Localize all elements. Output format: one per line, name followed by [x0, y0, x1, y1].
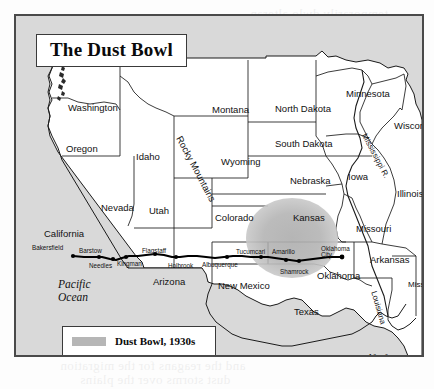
city-label-amarillo: Amarillo [272, 248, 295, 255]
city-label-albuquerque: Albuquerque [202, 261, 238, 268]
water-label-gulf-of-mexico: Gulf of Mexico [354, 353, 423, 357]
state-label-idaho: Idaho [136, 151, 160, 162]
state-label-nevada: Nevada [101, 202, 134, 213]
state-label-oregon: Oregon [66, 143, 98, 154]
map-page: temporarily dwlo alteran hearing the gra… [0, 0, 434, 389]
city-label-barstow: Barstow [79, 247, 102, 254]
state-label-south-dakota: South Dakota [275, 138, 333, 149]
state-name: Montana [212, 104, 249, 115]
state-name: Iowa [348, 171, 368, 182]
state-label-north-dakota: North Dakota [275, 103, 331, 114]
legend-item-route66: Route 66, roadway used by migrants [72, 352, 203, 357]
city-label-tucumcari: Tucumcari [236, 248, 265, 255]
city-label-needles: Needles [89, 262, 112, 269]
legend-label-route66: Route 66, roadway used by migrants [115, 352, 203, 357]
state-name: Washington [68, 102, 118, 113]
city-label-bakersfield: Bakersfield [32, 244, 63, 251]
state-label-new-mexico: New Mexico [218, 280, 270, 291]
city-label-holbrook: Holbrook [168, 262, 193, 269]
state-name: Missouri [356, 223, 391, 234]
map-frame: The Dust Bowl Dust Bowl, 1930s Route 66,… [14, 14, 424, 357]
state-name: Oklahoma [317, 270, 360, 281]
dust-bowl-region [246, 198, 338, 278]
map-title-box: The Dust Bowl [36, 34, 187, 67]
city-label-flagstaff: Flagstaff [142, 247, 166, 254]
state-label-utah: Utah [149, 205, 169, 216]
state-name: Wyoming [221, 156, 261, 167]
state-name: Wisconsin [394, 120, 424, 131]
state-label-illinois: Illinois [397, 188, 423, 199]
state-label-nebraska: Nebraska [290, 175, 331, 186]
state-name: Utah [149, 205, 169, 216]
state-label-minnesota: Minnesota [346, 88, 390, 99]
state-label-oklahoma: Oklahoma [317, 270, 360, 281]
state-name: Minnesota [346, 88, 390, 99]
state-label-arkansas: Arkansas [370, 254, 410, 265]
state-label-miss-: Miss. [408, 280, 424, 289]
legend-item-dustbowl: Dust Bowl, 1930s [72, 335, 203, 348]
state-name: South Dakota [275, 138, 333, 149]
state-name: Kansas [293, 212, 325, 223]
legend-label-route66-line1: Route 66, roadway [115, 352, 203, 357]
state-label-arizona: Arizona [153, 276, 185, 287]
state-label-kansas: Kansas [293, 212, 325, 223]
map-legend: Dust Bowl, 1930s Route 66, roadway used … [62, 326, 216, 357]
state-label-washington: Washington [68, 102, 118, 113]
state-label-texas: Texas [294, 306, 319, 317]
state-name: Illinois [397, 188, 423, 199]
state-name: Texas [294, 306, 319, 317]
page-title: The Dust Bowl [50, 39, 173, 61]
state-name: Colorado [215, 212, 254, 223]
state-name: Oregon [66, 143, 98, 154]
state-name: Nebraska [290, 175, 331, 186]
bleed-text: dust storms over the plains [80, 372, 230, 388]
state-name: New Mexico [218, 280, 270, 291]
state-label-california: California [44, 228, 84, 239]
state-label-colorado: Colorado [215, 212, 254, 223]
state-label-missouri: Missouri [356, 223, 391, 234]
state-name: Nevada [101, 202, 134, 213]
state-label-wisconsin: Wisconsin [394, 120, 424, 131]
state-label-wyoming: Wyoming [221, 156, 261, 167]
state-name: Arizona [153, 276, 185, 287]
state-label-montana: Montana [212, 104, 249, 115]
dustbowl-swatch-icon [72, 337, 106, 346]
city-label-shamrock: Shamrock [280, 268, 308, 275]
state-name: North Dakota [275, 103, 331, 114]
water-label-pacific: PacificOcean [58, 278, 91, 304]
state-label-iowa: Iowa [348, 171, 368, 182]
legend-label-dustbowl: Dust Bowl, 1930s [115, 335, 195, 348]
state-name: California [44, 228, 84, 239]
city-label-oklahoma: OklahomaCity [321, 246, 350, 259]
state-name: Arkansas [370, 254, 410, 265]
state-name: Idaho [136, 151, 160, 162]
city-label-kingman: Kingman [117, 260, 142, 267]
